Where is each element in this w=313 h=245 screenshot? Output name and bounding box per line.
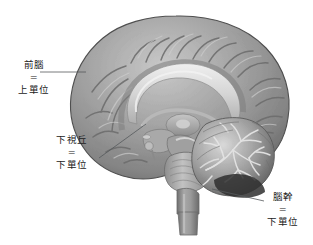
medulla-oblongata — [177, 188, 199, 214]
label-forebrain-equals: = — [6, 71, 62, 83]
label-forebrain-unit: 上單位 — [6, 83, 62, 96]
label-hypothalamus: 下視丘 = 下單位 — [42, 133, 102, 171]
interthalamic-adhesion — [176, 120, 190, 129]
label-hypothalamus-unit: 下單位 — [42, 158, 102, 171]
label-forebrain-term: 前腦 — [6, 58, 62, 71]
spinal-cord — [178, 212, 198, 235]
label-brainstem-unit: 下單位 — [256, 215, 310, 228]
label-forebrain: 前腦 = 上單位 — [6, 58, 62, 96]
label-brainstem-term: 腦幹 — [256, 190, 310, 203]
cerebellum-group — [192, 118, 275, 198]
label-brainstem: 腦幹 = 下單位 — [256, 190, 310, 228]
label-brainstem-equals: = — [256, 203, 310, 215]
label-hypothalamus-term: 下視丘 — [42, 133, 102, 146]
label-hypothalamus-equals: = — [42, 146, 102, 158]
brain-diagram-figure: 前腦 = 上單位 下視丘 = 下單位 腦幹 = 下單位 — [0, 0, 313, 245]
mammillary-body — [145, 142, 153, 150]
